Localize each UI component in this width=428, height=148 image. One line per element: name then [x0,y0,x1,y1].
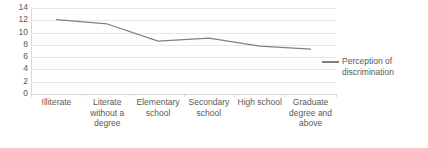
y-axis-tick-label: 6 [23,52,28,61]
y-axis-tick-label: 12 [19,15,28,24]
plot-area [31,8,336,94]
x-axis-tick-mark [133,94,134,97]
y-axis-tick-label: 10 [19,28,28,37]
y-axis: 14121086420 [0,0,30,100]
x-axis-tick-mark [234,94,235,97]
y-axis-tick-label: 4 [23,64,28,73]
y-axis-tick-label: 14 [19,3,28,12]
x-axis-tick-label: Secondary school [183,97,234,147]
x-axis-tick-label: Graduate degree and above [285,97,336,147]
y-axis-tick-label: 2 [23,77,28,86]
x-axis-tick-mark [336,94,337,97]
x-axis-tick-label: Illiterate [31,97,82,147]
legend: Perception of discrimination [322,56,428,78]
legend-line-icon [322,61,339,63]
x-axis-tick-label: Literate without a degree [82,97,133,147]
x-axis-tick-mark [31,94,32,97]
x-axis-tick-mark [82,94,83,97]
x-axis-tick-label: Elementary school [133,97,184,147]
legend-label: Perception of discrimination [342,56,422,78]
line-chart: 14121086420 IlliterateLiterate without a… [0,0,428,148]
x-axis-tick-mark [184,94,185,97]
y-axis-tick-label: 8 [23,40,28,49]
y-axis-tick-label: 0 [23,89,28,98]
x-axis: IlliterateLiterate without a degreeEleme… [31,97,336,147]
series-perception-of-discrimination [31,8,336,94]
series-line [56,20,310,49]
x-axis-tick-mark [285,94,286,97]
x-axis-tick-label: High school [234,97,285,147]
